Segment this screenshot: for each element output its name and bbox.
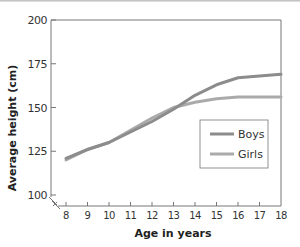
y-tick-label: 125: [28, 145, 48, 158]
legend-label-girls: Girls: [238, 148, 263, 161]
x-tick-label: 16: [232, 210, 244, 221]
x-tick-label: 13: [168, 210, 180, 221]
axis-break-icon: [49, 197, 60, 209]
y-tick-label: 200: [28, 14, 48, 27]
y-tick-label: 100: [28, 189, 48, 202]
x-tick-label: 12: [146, 210, 158, 221]
x-axis-title: Age in years: [134, 227, 212, 240]
y-tick-label: 175: [28, 58, 48, 71]
x-tick-label: 15: [211, 210, 223, 221]
y-axis-title: Average height (cm): [6, 65, 19, 192]
x-tick-label: 8: [63, 210, 69, 221]
x-tick-label: 18: [275, 210, 287, 221]
legend-label-boys: Boys: [238, 128, 265, 141]
y-tick-label: 150: [28, 102, 48, 115]
y-axis-ticks: 100125150175200: [28, 14, 57, 202]
x-tick-label: 17: [254, 210, 266, 221]
x-tick-label: 10: [103, 210, 115, 221]
x-tick-label: 11: [125, 210, 137, 221]
x-tick-label: 9: [85, 210, 91, 221]
line-chart: 100125150175200 89101112131415161718 Age…: [0, 0, 300, 247]
legend: Boys Girls: [200, 120, 268, 168]
x-tick-label: 14: [189, 210, 201, 221]
x-axis-ticks: 89101112131415161718: [63, 202, 287, 221]
